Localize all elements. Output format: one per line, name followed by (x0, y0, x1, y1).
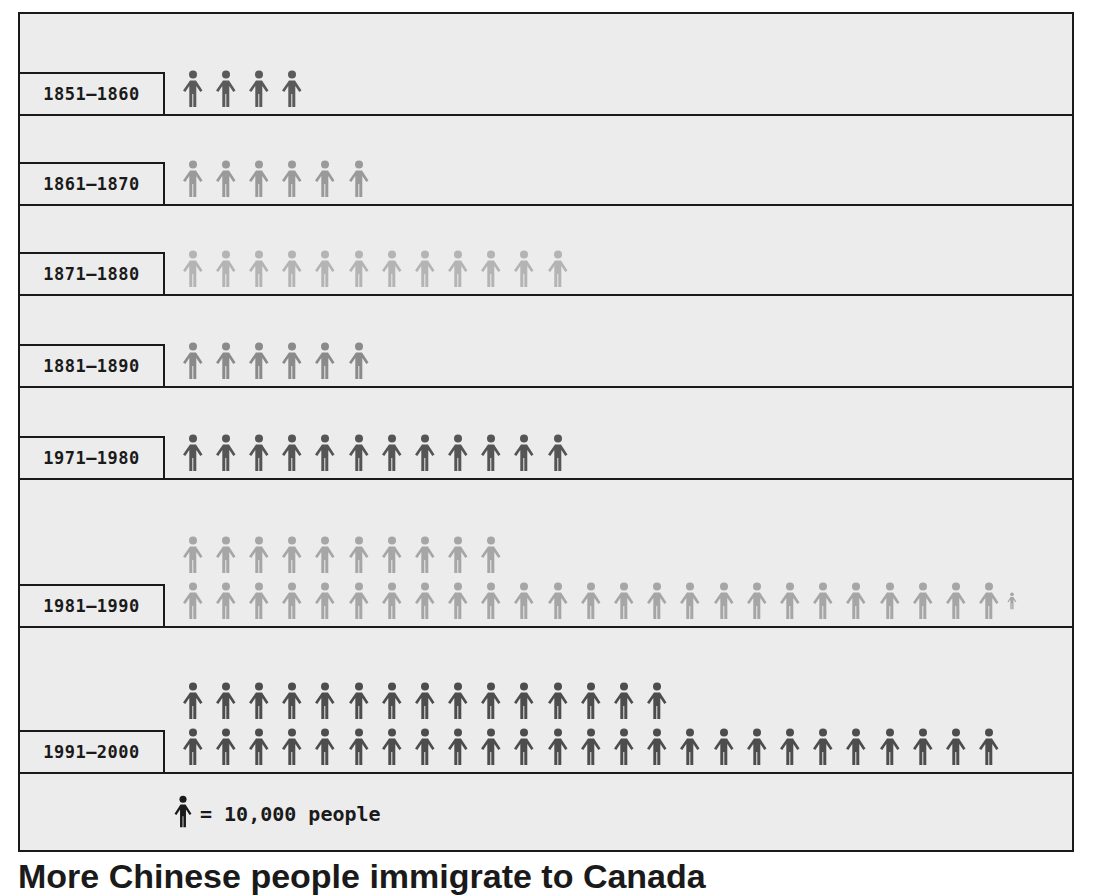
person-icon (541, 728, 574, 766)
person-icon (773, 728, 806, 766)
person-icon (674, 728, 707, 766)
person-icon (342, 160, 375, 198)
person-icon (242, 682, 275, 720)
people-line (176, 250, 574, 288)
person-icon (973, 582, 1006, 620)
person-icon (906, 728, 939, 766)
person-icon (674, 582, 707, 620)
person-icon (276, 250, 309, 288)
person-icon (442, 434, 475, 472)
person-icon (342, 536, 375, 574)
person-icon (309, 160, 342, 198)
person-icon (276, 536, 309, 574)
person-icon (309, 682, 342, 720)
person-icon (641, 682, 674, 720)
person-icon (475, 682, 508, 720)
person-icon (475, 728, 508, 766)
person-icon (541, 682, 574, 720)
person-icon (309, 434, 342, 472)
person-icon (342, 582, 375, 620)
person-icon (276, 160, 309, 198)
person-icon (607, 682, 640, 720)
person-icon (209, 582, 242, 620)
person-icon (309, 250, 342, 288)
people-line (176, 434, 574, 472)
person-icon (176, 434, 209, 472)
person-icon (176, 160, 209, 198)
person-icon (309, 536, 342, 574)
person-icon (574, 728, 607, 766)
person-icon (873, 582, 906, 620)
period-label: 1981–1990 (20, 584, 165, 626)
person-icon (375, 582, 408, 620)
person-icon (209, 70, 242, 108)
person-icon (209, 728, 242, 766)
people-line (176, 160, 375, 198)
people-line (176, 536, 508, 574)
person-icon (939, 582, 972, 620)
person-icon (176, 728, 209, 766)
person-icon (242, 250, 275, 288)
footer-title: More Chinese people immigrate to Canada (18, 856, 706, 896)
person-icon (607, 582, 640, 620)
person-icon (408, 434, 441, 472)
legend-row: = 10,000 people (20, 770, 1072, 850)
person-icon (342, 728, 375, 766)
person-icon (541, 434, 574, 472)
person-icon (342, 250, 375, 288)
person-icon (906, 582, 939, 620)
person-icon (209, 160, 242, 198)
person-icon (740, 728, 773, 766)
legend-text: = 10,000 people (200, 802, 381, 826)
person-icon (242, 582, 275, 620)
period-label: 1851–1860 (20, 72, 165, 114)
person-icon (176, 536, 209, 574)
person-icon (309, 342, 342, 380)
person-icon (475, 536, 508, 574)
person-icon (242, 70, 275, 108)
person-icon (375, 728, 408, 766)
person-icon (209, 536, 242, 574)
pictogram-chart: 1851–18601861–18701871–18801881–18901971… (18, 12, 1074, 852)
chart-row: 1871–1880 (20, 206, 1072, 296)
person-icon (242, 536, 275, 574)
person-icon (607, 728, 640, 766)
person-icon (408, 536, 441, 574)
person-icon (442, 536, 475, 574)
person-icon (242, 434, 275, 472)
person-icon (342, 342, 375, 380)
person-icon (276, 434, 309, 472)
period-label: 1971–1980 (20, 436, 165, 478)
person-icon (375, 682, 408, 720)
people-line (176, 342, 375, 380)
period-label: 1991–2000 (20, 730, 165, 772)
period-label: 1861–1870 (20, 162, 165, 204)
person-icon (375, 250, 408, 288)
person-icon (276, 70, 309, 108)
person-icon (475, 250, 508, 288)
person-icon (442, 728, 475, 766)
person-icon (209, 682, 242, 720)
people-line (176, 582, 1018, 620)
chart-row: 1881–1890 (20, 296, 1072, 388)
people-line (176, 70, 309, 108)
person-icon (641, 728, 674, 766)
person-icon (408, 682, 441, 720)
legend: = 10,000 people (172, 792, 381, 836)
person-icon (375, 536, 408, 574)
person-icon (209, 250, 242, 288)
person-icon (342, 682, 375, 720)
chart-row: 1861–1870 (20, 116, 1072, 206)
person-icon (176, 682, 209, 720)
person-icon (375, 434, 408, 472)
person-icon (574, 682, 607, 720)
people-line (176, 682, 674, 720)
person-icon (176, 342, 209, 380)
person-icon (840, 582, 873, 620)
person-icon (541, 582, 574, 620)
partial-person-icon (1006, 582, 1018, 620)
person-icon (574, 582, 607, 620)
person-icon (276, 682, 309, 720)
person-icon (408, 582, 441, 620)
person-icon (442, 250, 475, 288)
